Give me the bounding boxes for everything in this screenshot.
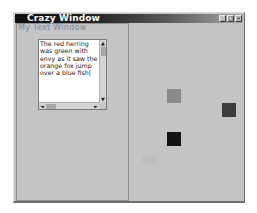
horizontal-scrollbar[interactable]: ◄ ► [39,102,99,109]
close-button[interactable]: × [235,15,242,22]
scroll-up-arrow-icon[interactable]: ▲ [100,40,106,46]
title-bar[interactable]: Crazy Window _ □ × [15,14,243,23]
text-area-content[interactable]: The red herring was green with envy as i… [40,40,99,76]
black-square[interactable] [167,132,181,146]
horizontal-scroll-thumb[interactable] [46,104,56,109]
dark-gray-square[interactable] [222,103,236,117]
minimize-button[interactable]: _ [219,15,226,22]
crazy-window: Crazy Window _ □ × My Text Window The re… [13,12,245,203]
scrollbar-corner [99,102,106,109]
canvas-area [130,23,243,200]
maximize-button[interactable]: □ [227,15,234,22]
window-controls: _ □ × [219,15,242,22]
text-window-panel: My Text Window The red herring was green… [16,23,129,201]
vertical-scrollbar[interactable]: ▲ ▼ [99,40,106,102]
text-window-label: My Text Window [18,23,87,32]
gray-square[interactable] [167,89,181,103]
scroll-left-arrow-icon[interactable]: ◄ [39,103,45,109]
faint-shape [142,155,156,165]
vertical-scroll-thumb[interactable] [101,47,106,56]
text-area[interactable]: The red herring was green with envy as i… [38,39,107,110]
